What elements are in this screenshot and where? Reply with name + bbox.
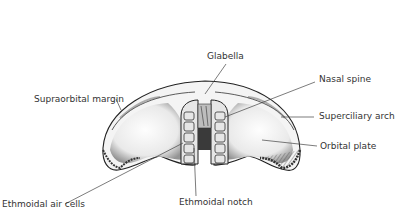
frontal-bone-illustration: [0, 0, 397, 212]
label-supraorbital-margin: Supraorbital margin: [34, 94, 124, 104]
label-orbital-plate: Orbital plate: [320, 141, 376, 151]
label-superciliary-arch: Superciliary arch: [319, 111, 395, 121]
ethmoidal-air-cells-graphic: [181, 100, 228, 164]
label-glabella: Glabella: [207, 51, 244, 61]
label-nasal-spine: Nasal spine: [319, 74, 371, 84]
label-ethmoidal-air-cells: Ethmoidal air cells: [2, 199, 85, 209]
label-ethmoidal-notch: Ethmoidal notch: [179, 197, 253, 207]
